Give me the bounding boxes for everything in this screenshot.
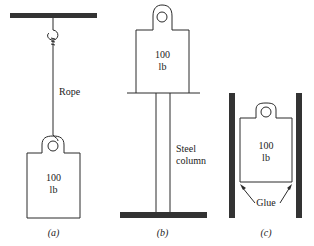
panel-b-drawing bbox=[120, 5, 207, 218]
ceiling-beam bbox=[10, 13, 97, 18]
wall-left bbox=[229, 93, 235, 218]
weight-a-value: 100 bbox=[27, 172, 80, 183]
weight-a-eye bbox=[48, 141, 58, 151]
steel-label: Steel bbox=[176, 143, 196, 154]
weight-c-value: 100 bbox=[240, 140, 292, 151]
caption-a: (a) bbox=[27, 227, 80, 238]
arrowhead-left-icon bbox=[240, 184, 246, 190]
rope-label: Rope bbox=[59, 86, 80, 97]
weight-c-unit: lb bbox=[240, 152, 292, 163]
weight-b-value: 100 bbox=[136, 49, 189, 60]
floor-base bbox=[120, 212, 207, 218]
glue-label: Glue bbox=[245, 197, 287, 208]
diagram-canvas bbox=[0, 0, 314, 246]
wall-right bbox=[296, 93, 302, 218]
arrowhead-right-icon bbox=[287, 184, 292, 190]
weight-b-eye bbox=[157, 12, 167, 22]
weight-c-eye bbox=[261, 107, 271, 117]
column-label: column bbox=[176, 155, 206, 166]
weight-b-unit: lb bbox=[136, 61, 189, 72]
weight-a-unit: lb bbox=[27, 184, 80, 195]
caption-c: (c) bbox=[240, 227, 292, 238]
caption-b: (b) bbox=[136, 227, 189, 238]
